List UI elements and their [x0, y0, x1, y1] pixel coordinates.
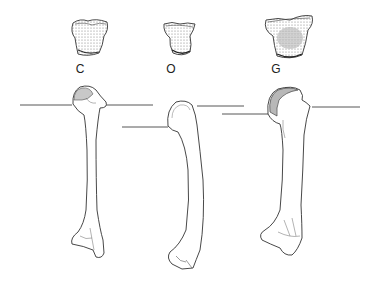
- specimen-c-humerus: [72, 86, 107, 258]
- specimen-label-o: O: [161, 62, 181, 76]
- specimen-g-articular-view: [265, 16, 312, 58]
- specimen-g-humerus: [261, 87, 310, 255]
- bone-drawings: [0, 0, 379, 281]
- specimen-o-articular-view: [164, 23, 195, 55]
- specimen-label-g: G: [266, 62, 286, 76]
- bone-comparison-figure: C O G: [0, 0, 379, 281]
- specimen-o-humerus: [168, 101, 204, 269]
- specimen-label-c: C: [70, 62, 90, 76]
- specimen-c-articular-view: [72, 20, 108, 56]
